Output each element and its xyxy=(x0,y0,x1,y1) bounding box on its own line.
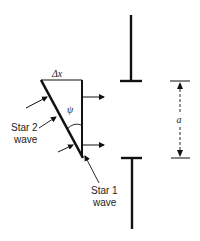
star1-label-line1: Star 1 xyxy=(91,185,118,196)
delta-x-label: Δx xyxy=(51,68,63,79)
psi-label: ψ xyxy=(67,104,74,115)
slit-screen xyxy=(120,15,142,229)
wedge xyxy=(41,80,83,158)
incoming-arrow-icon xyxy=(58,145,73,152)
psi-angle-arc xyxy=(67,124,81,129)
star1-label-line2: wave xyxy=(92,197,117,208)
star1-leader-arrow-icon xyxy=(85,156,99,183)
diagram: Δx ψ Star 2 wave Star 1 wave a xyxy=(0,0,200,241)
a-label: a xyxy=(177,114,182,125)
star2-label-line2: wave xyxy=(13,134,38,145)
dimension-arrow-down-icon xyxy=(177,150,183,157)
wedge-hypotenuse xyxy=(41,80,83,158)
incoming-arrow-icon xyxy=(26,97,47,108)
star2-label-line1: Star 2 xyxy=(11,122,38,133)
dimension-arrow-up-icon xyxy=(177,82,183,89)
star2-leader-arrow-icon xyxy=(39,117,56,128)
